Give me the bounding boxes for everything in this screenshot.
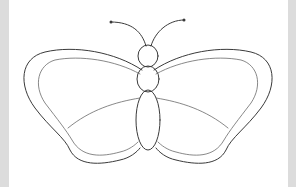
butterfly-abdomen (136, 90, 160, 150)
left-wing-divider (68, 98, 140, 128)
right-antenna (151, 20, 184, 46)
right-wing-inner (156, 58, 258, 155)
left-antenna (111, 22, 146, 46)
butterfly-head (138, 45, 158, 67)
left-antenna-tip (110, 21, 113, 24)
butterfly-drawing (0, 0, 296, 187)
right-antenna-tip (183, 19, 186, 22)
left-wing-inner (38, 58, 140, 155)
right-wing-divider (156, 98, 228, 128)
butterfly-thorax (137, 66, 159, 92)
